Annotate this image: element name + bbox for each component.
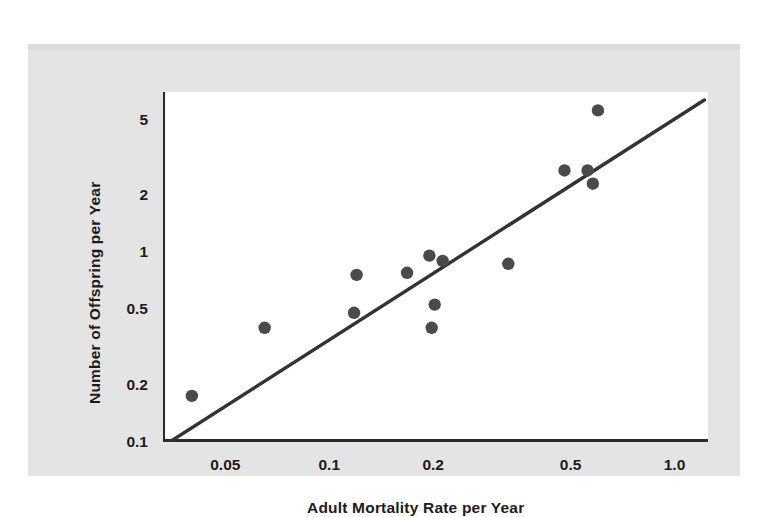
y-tick-label-5: 5	[139, 111, 148, 129]
y-tick-label-0: 0.1	[126, 433, 148, 451]
trend-line	[170, 100, 705, 442]
data-point-4	[401, 267, 413, 279]
data-points	[186, 104, 604, 402]
data-point-8	[436, 255, 448, 267]
data-point-10	[558, 164, 570, 176]
x-axis-title: Adult Mortality Rate per Year	[307, 499, 524, 517]
data-point-7	[428, 298, 440, 310]
data-point-2	[348, 307, 360, 319]
panel-top-shading	[28, 44, 740, 50]
plot-area	[163, 92, 708, 442]
data-point-1	[258, 322, 270, 334]
axis-spines	[163, 92, 708, 442]
x-tick-label-1: 0.1	[318, 456, 340, 474]
y-tick-label-1: 0.2	[126, 376, 148, 394]
data-point-13	[592, 104, 604, 116]
y-axis-title: Number of Offspring per Year	[86, 182, 104, 404]
y-tick-label-3: 1	[139, 243, 148, 261]
scatter-plot-svg	[163, 92, 708, 442]
data-point-11	[581, 164, 593, 176]
x-tick-label-4: 1.0	[664, 456, 686, 474]
x-tick-label-3: 0.5	[560, 456, 582, 474]
data-point-6	[425, 322, 437, 334]
regression-line	[170, 100, 705, 442]
y-tick-label-2: 0.5	[126, 300, 148, 318]
figure-panel: Number of Offspring per Year Adult Morta…	[28, 44, 740, 476]
x-tick-label-2: 0.2	[422, 456, 444, 474]
data-point-0	[186, 390, 198, 402]
y-tick-label-4: 2	[139, 186, 148, 204]
data-point-5	[423, 249, 435, 261]
x-tick-label-0: 0.05	[210, 456, 240, 474]
data-point-3	[350, 269, 362, 281]
data-point-12	[587, 177, 599, 189]
data-point-9	[502, 258, 514, 270]
